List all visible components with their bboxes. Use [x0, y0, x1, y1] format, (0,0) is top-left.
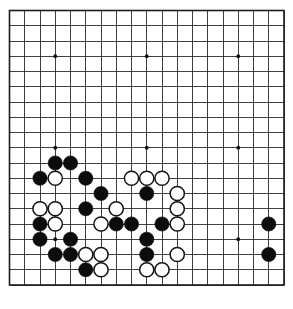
white-stone-K2[interactable]: [140, 263, 154, 277]
black-stone-S3[interactable]: [262, 247, 276, 261]
white-stone-G5[interactable]: [94, 217, 108, 231]
black-stone-F6[interactable]: [79, 202, 93, 216]
black-stone-C4[interactable]: [33, 232, 47, 246]
black-stone-D3[interactable]: [48, 247, 62, 261]
star-point: [53, 237, 57, 241]
star-point: [53, 54, 57, 58]
go-board-app: [0, 0, 293, 309]
black-stone-F2[interactable]: [79, 263, 93, 277]
star-point: [145, 54, 149, 58]
white-stone-D6[interactable]: [48, 202, 62, 216]
white-stone-C6[interactable]: [33, 202, 47, 216]
black-stone-G7[interactable]: [94, 186, 108, 200]
white-stone-L8[interactable]: [155, 171, 169, 185]
black-stone-J5[interactable]: [124, 217, 138, 231]
black-stone-S5[interactable]: [262, 217, 276, 231]
white-stone-D8[interactable]: [48, 171, 62, 185]
star-point: [236, 146, 240, 150]
black-stone-L5[interactable]: [155, 217, 169, 231]
black-stone-D9[interactable]: [48, 156, 62, 170]
black-stone-F8[interactable]: [79, 171, 93, 185]
white-stone-H6[interactable]: [109, 202, 123, 216]
star-point: [236, 237, 240, 241]
white-stone-F3[interactable]: [79, 247, 93, 261]
white-stone-J8[interactable]: [124, 171, 138, 185]
white-stone-G2[interactable]: [94, 263, 108, 277]
white-stone-M3[interactable]: [170, 247, 184, 261]
black-stone-K7[interactable]: [140, 186, 154, 200]
black-stone-K3[interactable]: [140, 247, 154, 261]
star-point: [236, 54, 240, 58]
black-stone-K4[interactable]: [140, 232, 154, 246]
white-stone-M6[interactable]: [170, 202, 184, 216]
white-stone-M7[interactable]: [170, 186, 184, 200]
star-point: [145, 146, 149, 150]
white-stone-D5[interactable]: [48, 217, 62, 231]
black-stone-E3[interactable]: [63, 247, 77, 261]
white-stone-L2[interactable]: [155, 263, 169, 277]
black-stone-C8[interactable]: [33, 171, 47, 185]
white-stone-G3[interactable]: [94, 247, 108, 261]
go-board[interactable]: [0, 0, 293, 309]
black-stone-E9[interactable]: [63, 156, 77, 170]
black-stone-E4[interactable]: [63, 232, 77, 246]
black-stone-H5[interactable]: [109, 217, 123, 231]
black-stone-C5[interactable]: [33, 217, 47, 231]
star-point: [53, 146, 57, 150]
white-stone-M5[interactable]: [170, 217, 184, 231]
white-stone-K8[interactable]: [140, 171, 154, 185]
